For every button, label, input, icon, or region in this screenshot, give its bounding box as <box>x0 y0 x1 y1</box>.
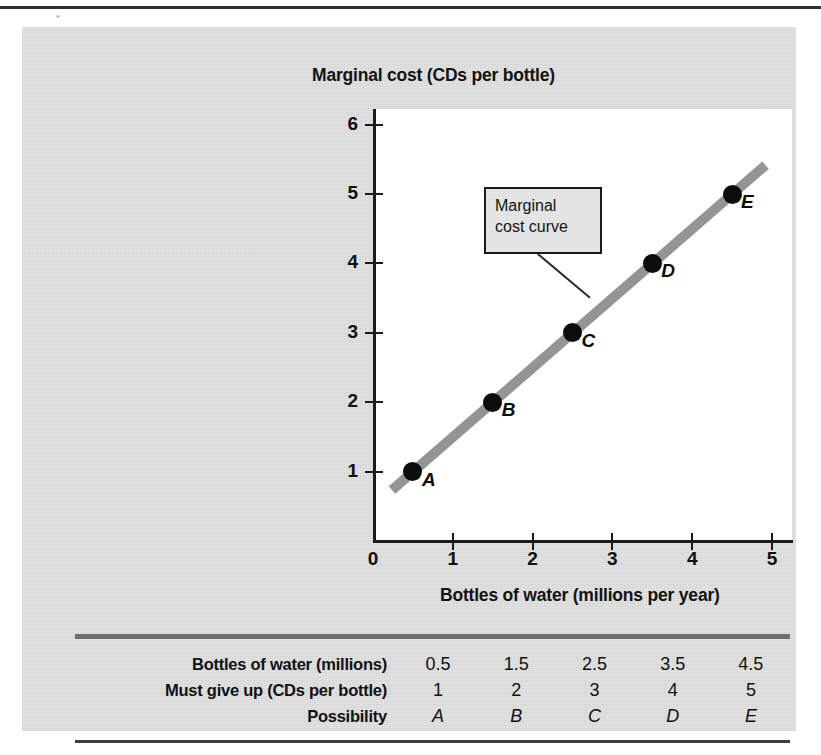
y-axis-line <box>373 109 376 543</box>
y-tick-1 <box>365 471 383 473</box>
x-axis-line <box>373 540 793 543</box>
annotation-callout: Marginal cost curve <box>484 187 602 254</box>
y-tick-label-4: 4 <box>330 251 358 273</box>
x-tick-label-0: 0 <box>358 548 388 570</box>
x-tick-label-4: 4 <box>677 548 707 570</box>
data-point-E <box>723 185 742 204</box>
y-tick-6 <box>365 124 383 126</box>
annotation-line-1: Marginal <box>495 195 600 216</box>
data-point-label-C: C <box>582 330 596 352</box>
table-cell-r2-c3: D <box>634 703 712 729</box>
table-cell-r0-c4: 4.5 <box>712 651 790 677</box>
table-bottom-rule <box>75 740 790 743</box>
y-tick-label-6: 6 <box>330 113 358 135</box>
chart-title: Marginal cost (CDs per bottle) <box>312 65 555 86</box>
data-point-label-D: D <box>661 260 675 282</box>
data-point-label-A: A <box>422 469 436 491</box>
table-row-label: Bottles of water (millions) <box>75 651 399 677</box>
x-tick-label-2: 2 <box>518 548 548 570</box>
table-cell-r2-c2: C <box>555 703 633 729</box>
table-row: Bottles of water (millions)0.51.52.53.54… <box>75 651 790 677</box>
table-row-label: Possibility <box>75 703 399 729</box>
table-cell-r1-c3: 4 <box>634 677 712 703</box>
figure-panel: Marginal cost (CDs per bottle) 654321 01… <box>22 27 796 731</box>
x-tick-label-5: 5 <box>757 548 787 570</box>
x-axis-title: Bottles of water (millions per year) <box>440 585 720 606</box>
table-cell-r1-c0: 1 <box>399 677 477 703</box>
data-point-B <box>483 393 502 412</box>
table-cell-r2-c1: B <box>477 703 555 729</box>
annotation-line-2: cost curve <box>495 216 600 237</box>
data-point-label-E: E <box>741 191 754 213</box>
y-tick-label-2: 2 <box>330 390 358 412</box>
y-tick-label-3: 3 <box>330 321 358 343</box>
corner-mark: • <box>56 12 63 21</box>
x-tick-label-1: 1 <box>438 548 468 570</box>
table-cell-r0-c0: 0.5 <box>399 651 477 677</box>
table-cell-r0-c3: 3.5 <box>634 651 712 677</box>
y-tick-2 <box>365 401 383 403</box>
table-row: Must give up (CDs per bottle)12345 <box>75 677 790 703</box>
y-tick-4 <box>365 262 383 264</box>
table-row-label: Must give up (CDs per bottle) <box>75 677 399 703</box>
table-top-rule <box>75 634 790 639</box>
table-cell-r0-c1: 1.5 <box>477 651 555 677</box>
data-point-D <box>643 254 662 273</box>
table-cell-r2-c4: E <box>712 703 790 729</box>
y-tick-label-5: 5 <box>330 182 358 204</box>
table-cell-r0-c2: 2.5 <box>555 651 633 677</box>
table-row: PossibilityABCDE <box>75 703 790 729</box>
table-cell-r1-c2: 3 <box>555 677 633 703</box>
data-point-label-B: B <box>502 399 516 421</box>
y-tick-label-1: 1 <box>330 460 358 482</box>
y-tick-3 <box>365 332 383 334</box>
page-top-rule <box>0 6 821 9</box>
table-cell-r1-c1: 2 <box>477 677 555 703</box>
y-tick-5 <box>365 193 383 195</box>
x-tick-label-3: 3 <box>597 548 627 570</box>
table-cell-r1-c4: 5 <box>712 677 790 703</box>
table-cell-r2-c0: A <box>399 703 477 729</box>
data-table: Bottles of water (millions)0.51.52.53.54… <box>75 651 790 729</box>
figure-container: • Marginal cost (CDs per bottle) 654321 … <box>0 0 821 755</box>
